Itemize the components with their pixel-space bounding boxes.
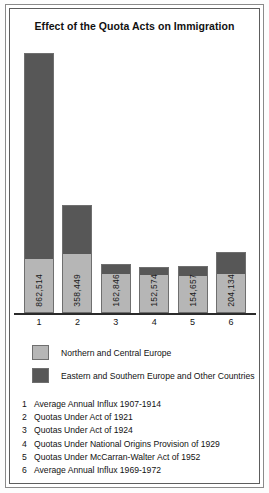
bar-segment-northern-central: 862,514: [25, 259, 53, 312]
footnote-number: 6: [22, 465, 34, 475]
x-axis-line: [14, 313, 256, 315]
footnote-text: Quotas Under McCarran-Walter Act of 1952: [34, 452, 200, 462]
legend-item[interactable]: Northern and Central Europe: [32, 345, 247, 360]
bar-value-label: 152,574: [140, 274, 168, 309]
footnote-number: 3: [22, 425, 34, 435]
plot-area: 862,514358,449162,846152,574154,657204,1…: [24, 42, 246, 313]
bar-value-label: 204,134: [217, 274, 245, 309]
bar-group: 862,514358,449162,846152,574154,657204,1…: [24, 42, 246, 313]
x-tick-6: 6: [216, 317, 246, 327]
x-tick-3: 3: [101, 317, 131, 327]
bar-slot: 204,134: [216, 42, 246, 313]
chart-figure: Effect of the Quota Acts on Immigration …: [0, 0, 269, 493]
footnote-text: Quotas Under Act of 1924: [34, 425, 133, 435]
footnote-text: Average Annual Influx 1969-1972: [34, 465, 161, 475]
bar-value-label: 162,846: [102, 274, 130, 309]
bar-slot: 162,846: [101, 42, 131, 313]
bar-slot: 862,514: [24, 42, 54, 313]
x-tick-4: 4: [139, 317, 169, 327]
bar-segment-eastern-southern: [25, 54, 53, 259]
legend-swatch-light: [32, 345, 49, 360]
footnote-number: 1: [22, 399, 34, 409]
bar-slot: 152,574: [139, 42, 169, 313]
bar-slot: 154,657: [178, 42, 208, 313]
footnote-number: 5: [22, 452, 34, 462]
footnote-item: 4Quotas Under National Origins Provision…: [22, 439, 257, 449]
bar-slot: 358,449: [62, 42, 92, 313]
stacked-bar[interactable]: 154,657: [178, 266, 208, 313]
bar-segment-northern-central: 154,657: [179, 276, 207, 312]
footnote-text: Quotas Under Act of 1921: [34, 412, 133, 422]
x-tick-1: 1: [24, 317, 54, 327]
footnote-item: 2Quotas Under Act of 1921: [22, 412, 257, 422]
bar-segment-northern-central: 204,134: [217, 274, 245, 312]
bar-segment-northern-central: 162,846: [102, 274, 130, 312]
bar-segment-northern-central: 152,574: [140, 275, 168, 312]
bar-segment-eastern-southern: [217, 253, 245, 275]
footnote-number: 4: [22, 439, 34, 449]
chart-legend: Northern and Central EuropeEastern and S…: [32, 345, 247, 391]
footnote-item: 6Average Annual Influx 1969-1972: [22, 465, 257, 475]
footnote-list: 1Average Annual Influx 1907-19142Quotas …: [22, 399, 257, 478]
legend-label: Eastern and Southern Europe and Other Co…: [61, 371, 254, 381]
stacked-bar[interactable]: 358,449: [62, 205, 92, 313]
footnote-text: Average Annual Influx 1907-1914: [34, 399, 161, 409]
footnote-text: Quotas Under National Origins Provision …: [34, 439, 220, 449]
bar-value-label: 154,657: [179, 274, 207, 309]
stacked-bar[interactable]: 862,514: [24, 53, 54, 313]
footnote-item: 5Quotas Under McCarran-Walter Act of 195…: [22, 452, 257, 462]
legend-swatch-dark: [32, 368, 49, 383]
chart-title: Effect of the Quota Acts on Immigration: [10, 20, 259, 32]
x-axis-tick-labels: 123456: [24, 317, 246, 327]
bar-segment-eastern-southern: [63, 206, 91, 253]
legend-item[interactable]: Eastern and Southern Europe and Other Co…: [32, 368, 247, 383]
footnote-item: 1Average Annual Influx 1907-1914: [22, 399, 257, 409]
bar-value-label: 358,449: [63, 274, 91, 309]
bar-segment-eastern-southern: [102, 265, 130, 274]
legend-label: Northern and Central Europe: [61, 348, 171, 358]
footnote-number: 2: [22, 412, 34, 422]
stacked-bar[interactable]: 152,574: [139, 267, 169, 313]
stacked-bar[interactable]: 204,134: [216, 252, 246, 313]
x-tick-5: 5: [178, 317, 208, 327]
bar-segment-northern-central: 358,449: [63, 254, 91, 313]
bar-value-label: 862,514: [25, 274, 53, 309]
x-tick-2: 2: [62, 317, 92, 327]
footnote-item: 3Quotas Under Act of 1924: [22, 425, 257, 435]
stacked-bar[interactable]: 162,846: [101, 264, 131, 313]
